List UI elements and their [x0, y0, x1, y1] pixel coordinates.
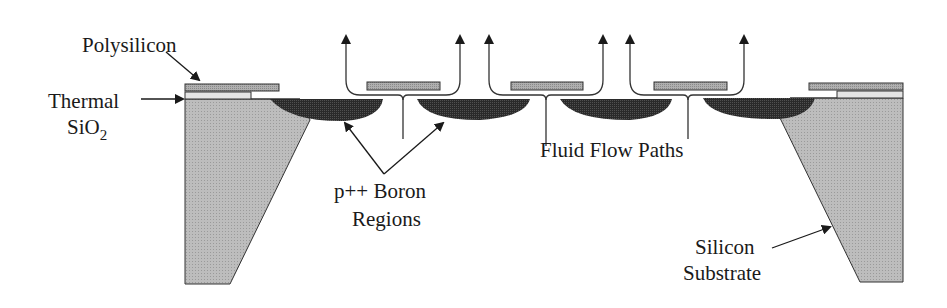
fluid-flow-label: Fluid Flow Paths — [540, 138, 684, 162]
boron-pointer-right — [384, 123, 443, 174]
sio2-label: SiO2 — [67, 115, 107, 143]
boron-label-line1: p++ Boron — [334, 179, 426, 203]
right-oxide-layer — [837, 91, 903, 98]
boron-regions — [270, 98, 815, 121]
flow-path-2-left — [489, 36, 546, 146]
thermal-label: Thermal — [48, 89, 119, 113]
boron-region-3 — [560, 99, 672, 120]
boron-pointer-left — [345, 123, 384, 174]
sio2-subscript: 2 — [100, 127, 108, 143]
silicon-substrate-pointer — [772, 227, 830, 248]
right-polysilicon-layer — [809, 83, 903, 90]
fluid-flow-paths — [346, 36, 744, 146]
polysilicon-bar-1 — [367, 82, 440, 90]
boron-label-line2: Regions — [352, 207, 421, 231]
polysilicon-bar-3 — [654, 82, 727, 90]
filter-cross-section-diagram: Polysilicon Thermal SiO2 p++ Boron Regio… — [0, 0, 947, 308]
polysilicon-label: Polysilicon — [82, 33, 177, 57]
silicon-label-line1: Silicon — [695, 235, 755, 259]
left-substrate — [185, 84, 310, 284]
left-oxide-layer — [185, 92, 251, 99]
polysilicon-bars — [367, 82, 727, 90]
boron-region-2 — [417, 99, 530, 120]
polysilicon-bar-2 — [511, 82, 583, 90]
sio2-base: SiO — [67, 115, 100, 139]
left-polysilicon-layer — [185, 84, 279, 91]
silicon-label-line2: Substrate — [683, 261, 761, 285]
